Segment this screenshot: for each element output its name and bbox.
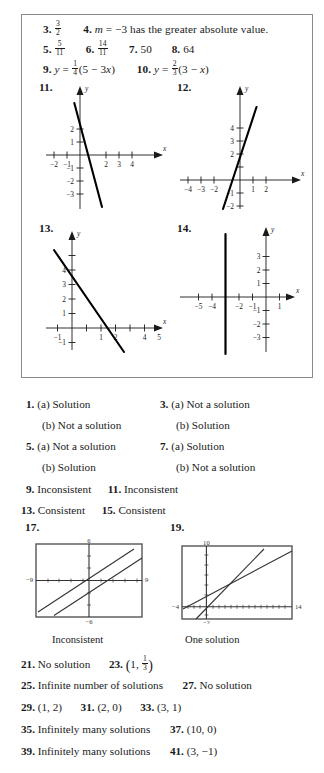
graph-label-19: 19. (170, 521, 184, 533)
answer-number-37: 37. (170, 723, 184, 735)
svg-text:1: 1 (251, 185, 255, 194)
svg-text:2: 2 (230, 150, 234, 159)
svg-text:2: 2 (70, 125, 74, 134)
answer-35: Infinitely many solutions (38, 723, 151, 735)
answer-row-3b: (b) Solution (176, 419, 230, 431)
answer-number-4: 4. (83, 23, 92, 35)
answer-5a: (a) Not a solution (37, 440, 116, 452)
answer-number-29: 29. (21, 701, 35, 713)
svg-text:−2: −2 (203, 619, 210, 624)
answer-7b: (b) Not a solution (176, 461, 255, 473)
answer-29: (1, 2) (38, 701, 62, 713)
answer-row-1b: (b) Not a solution (42, 419, 121, 431)
answer-text-4: = −3 has the greater absolute value. (103, 23, 268, 35)
graph-11: −2 −1 2 3 4 2 1 −1 −2 −3 x y (32, 77, 172, 212)
graph-14: −5 −4 −2 −1 1 3 2 1 −1 −2 −3 x y (170, 218, 312, 356)
answer-row-5b: (b) Solution (42, 461, 96, 473)
answer-15: Consistent (118, 504, 165, 516)
answer-key-page: 3. 3 2 4. m = −3 has the greater absolut… (0, 0, 324, 773)
fraction-3-2: 3 2 (55, 20, 61, 37)
fraction-5-11: 5 11 (55, 40, 65, 57)
svg-text:−1: −1 (58, 338, 66, 347)
answer-row-1a: 1. (a) Solution (26, 398, 90, 410)
answer-number-9: 9. (43, 63, 52, 75)
svg-text:y: y (84, 84, 89, 93)
answer-number-41: 41. (170, 745, 184, 757)
calculator-screen-19: 10 −4 14 −2 (168, 539, 308, 628)
graph-label-17: 17. (25, 521, 39, 533)
svg-text:x: x (295, 286, 300, 295)
answer-number-1: 1. (26, 398, 34, 410)
svg-text:y: y (76, 229, 81, 238)
graph-12: −4 −3 −2 1 2 4 3 2 −1 −2 x y (170, 77, 312, 212)
answer-row-21-23: 21. No solution 23. (1, 1 3 ) (21, 656, 153, 674)
caption-17: Inconsistent (52, 634, 103, 645)
expr-9-a: (5 − 3 (79, 63, 106, 75)
answer-line-9-10: 9. y = 1 4 (5 − 3x) 10. y = 2 3 (3 − x) (43, 61, 209, 78)
answer-number-5: 5. (43, 43, 52, 55)
answer-line-3-4: 3. 3 2 4. m = −3 has the greater absolut… (43, 21, 268, 38)
svg-text:2: 2 (62, 295, 66, 304)
answer-number-10: 10. (137, 63, 151, 75)
answer-row-25-27: 25. Infinite number of solutions 27. No … (21, 679, 252, 691)
answer-number-9b: 9. (26, 483, 34, 495)
paren-close-23: ) (148, 658, 153, 673)
expr-10-a: (3 − (178, 63, 200, 75)
svg-text:−4: −4 (184, 185, 192, 194)
fraction-1-3: 1 3 (142, 655, 148, 672)
svg-text:4: 4 (130, 160, 134, 169)
svg-text:14: 14 (295, 603, 302, 610)
expr-9-b: ) (111, 63, 115, 75)
answer-31: (2, 0) (97, 701, 121, 713)
answer-1b: (b) Not a solution (42, 419, 121, 431)
svg-text:2: 2 (264, 185, 268, 194)
calculator-screen-17: 6 −9 9 −6 (24, 539, 154, 628)
answer-line-5-8: 5. 5 11 6. 14 11 7. 50 8. 64 (43, 41, 195, 58)
boxed-answers-region: 3. 3 2 4. m = −3 has the greater absolut… (21, 14, 313, 378)
answer-value-8: 64 (183, 43, 194, 55)
svg-text:1: 1 (62, 309, 66, 318)
answer-41: (3, −1) (187, 745, 218, 757)
svg-text:−4: −4 (172, 603, 180, 610)
answer-number-6: 6. (86, 43, 95, 55)
svg-text:1: 1 (257, 279, 261, 288)
answer-number-27: 27. (183, 679, 197, 691)
expr-10-b: ) (205, 63, 209, 75)
answer-row-3a: 3. (a) Not a solution (160, 398, 250, 410)
answer-number-31: 31. (81, 701, 95, 713)
answer-33: (3, 1) (157, 701, 181, 713)
svg-text:−5: −5 (195, 302, 203, 311)
answer-number-7: 7. (129, 43, 138, 55)
answer-39: Infinitely many solutions (38, 745, 151, 757)
answer-row-29-33: 29. (1, 2) 31. (2, 0) 33. (3, 1) (21, 701, 181, 713)
svg-text:6: 6 (87, 539, 91, 544)
answer-11: Inconsistent (124, 483, 178, 495)
equals-9: = (60, 63, 72, 75)
svg-text:2: 2 (104, 160, 108, 169)
svg-text:4: 4 (143, 333, 147, 342)
caption-19: One solution (185, 634, 239, 645)
svg-text:1: 1 (99, 333, 103, 342)
answer-row-7b: (b) Not a solution (176, 461, 255, 473)
answer-1a: (a) Solution (37, 398, 90, 410)
svg-text:−2: −2 (253, 320, 261, 329)
svg-text:−1: −1 (253, 306, 261, 315)
svg-text:3: 3 (62, 280, 66, 289)
svg-text:−2: −2 (66, 177, 74, 186)
svg-text:y: y (270, 225, 275, 234)
svg-text:−2: −2 (235, 302, 243, 311)
svg-text:3: 3 (117, 160, 121, 169)
answer-13: Consistent (38, 504, 85, 516)
answer-row-13-15: 13. Consistent 15. Consistent (21, 504, 166, 516)
answer-number-15: 15. (102, 504, 116, 516)
answer-number-3: 3. (43, 23, 52, 35)
answer-number-23: 23. (109, 658, 123, 670)
svg-text:−4: −4 (208, 302, 216, 311)
answer-row-7a: 7. (a) Solution (160, 440, 224, 452)
answer-number-11: 11. (108, 483, 121, 495)
answer-3b: (b) Solution (176, 419, 230, 431)
answer-number-39: 39. (21, 745, 35, 757)
svg-text:4: 4 (230, 124, 234, 133)
answer-number-21: 21. (21, 658, 35, 670)
svg-text:−2: −2 (210, 185, 218, 194)
